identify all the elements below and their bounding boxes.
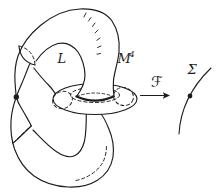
label-L: L [57,51,67,66]
critical-value-dot [188,94,193,99]
double-point-dot [14,94,19,99]
map-arrow-group: ℱ [141,73,171,99]
base-curve-group: Σ [179,62,211,135]
base-curve [179,68,211,134]
hidden-sheet-edge [34,68,56,94]
label-sigma: Σ [187,62,198,77]
map-F-label: ℱ [151,73,163,91]
manifold-figure: L M 4 ℱ Σ [0,0,223,196]
figure-canvas: L M 4 ℱ Σ [0,0,223,196]
label-M-exponent: 4 [129,50,135,59]
